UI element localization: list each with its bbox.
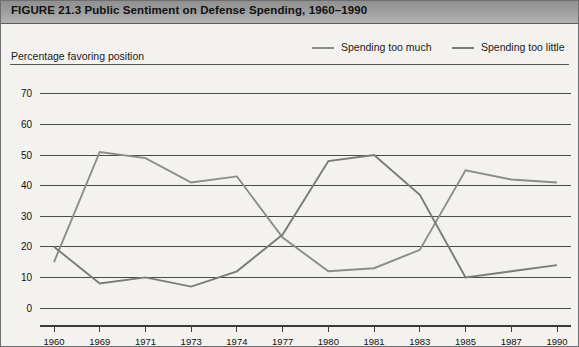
x-axis-tick-label: 1973 [181, 336, 202, 347]
x-axis-tick-label: 1985 [455, 336, 476, 347]
x-axis-tick-label: 1977 [272, 336, 293, 347]
series-line-too-little [54, 155, 557, 287]
x-axis-tick-label: 1990 [546, 336, 567, 347]
y-axis-tick-label: 50 [21, 150, 33, 161]
x-axis-tick-label: 1981 [364, 336, 385, 347]
y-axis-tick-label: 20 [21, 241, 33, 252]
figure-container: FIGURE 21.3 Public Sentiment on Defense … [0, 0, 579, 347]
legend-line-swatch-icon [312, 47, 334, 49]
figure-title-band: FIGURE 21.3 Public Sentiment on Defense … [0, 0, 579, 24]
legend-item-too-much: Spending too much [312, 39, 431, 55]
x-axis-tick-label: 1983 [409, 336, 430, 347]
legend-line-swatch-icon [452, 47, 474, 49]
y-axis-tick-label: 40 [21, 180, 33, 191]
legend-label-too-much: Spending too much [341, 41, 431, 53]
x-axis-tick-labels: 1960196919711973197419771980198119831985… [43, 336, 567, 347]
y-axis-tick-labels: 010203040506070 [21, 88, 33, 313]
plot-area: 010203040506070 196019691971197319741977… [0, 64, 579, 347]
x-axis-tick-label: 1971 [135, 336, 156, 347]
y-axis-caption: Percentage favoring position [11, 50, 144, 62]
gridlines [40, 94, 571, 308]
y-axis-tick-label: 10 [21, 272, 33, 283]
x-axis-tick-label: 1974 [226, 336, 247, 347]
figure-title: FIGURE 21.3 Public Sentiment on Defense … [11, 4, 367, 16]
y-axis-tick-label: 60 [21, 119, 33, 130]
chart-legend: Spending too much Spending too little [300, 39, 572, 55]
data-series [54, 152, 557, 287]
x-axis [40, 326, 571, 332]
line-chart: 010203040506070 196019691971197319741977… [0, 64, 579, 347]
y-axis-tick-label: 0 [26, 303, 32, 314]
legend-item-too-little: Spending too little [452, 39, 564, 55]
x-axis-tick-label: 1980 [318, 336, 339, 347]
x-axis-tick-label: 1987 [501, 336, 522, 347]
series-line-too-much [54, 152, 557, 271]
y-axis-tick-label: 30 [21, 211, 33, 222]
legend-label-too-little: Spending too little [481, 41, 564, 53]
x-axis-tick-label: 1960 [43, 336, 64, 347]
y-axis-tick-label: 70 [21, 88, 33, 99]
x-axis-tick-label: 1969 [89, 336, 110, 347]
